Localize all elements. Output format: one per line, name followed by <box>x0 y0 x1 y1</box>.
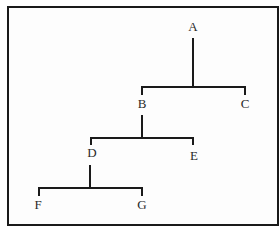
node-g-label: G <box>137 197 146 212</box>
node-c-label: C <box>241 96 250 111</box>
node-a-label: A <box>188 19 198 34</box>
node-f-label: F <box>34 197 41 212</box>
node-b-label: B <box>138 96 147 111</box>
node-e-label: E <box>190 148 198 163</box>
node-d-label: D <box>87 145 96 160</box>
edge-group-a <box>141 38 246 95</box>
tree-diagram: A B C D E F G <box>0 0 279 230</box>
edge-group-d <box>38 165 143 196</box>
edge-group-b <box>90 115 194 145</box>
